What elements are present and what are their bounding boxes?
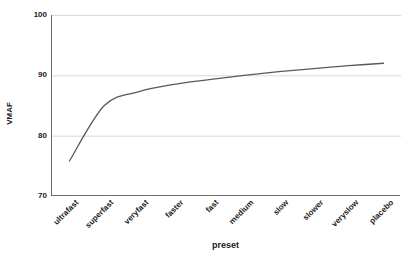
- vmaf-data-line: [69, 63, 383, 161]
- x-tick-label-veryslow: veryslow: [329, 198, 360, 229]
- x-tick-label-text: medium: [227, 198, 255, 226]
- x-tick-label-text: slower: [301, 198, 325, 222]
- x-tick-label-faster: faster: [164, 198, 186, 220]
- x-tick-label-text: faster: [164, 198, 186, 220]
- x-tick-label-placebo: placebo: [367, 198, 395, 226]
- y-axis-title-text: VMAF: [5, 102, 14, 125]
- x-tick-label-veryfast: veryfast: [123, 198, 151, 226]
- x-tick-label-text: veryfast: [123, 198, 151, 226]
- x-tick-label-slow: slow: [271, 198, 290, 217]
- y-tick-label-90: 90: [22, 71, 47, 79]
- x-tick-label-text: ultrafast: [52, 198, 81, 227]
- x-tick-label-text: superfast: [84, 198, 116, 230]
- plot-canvas: [52, 15, 401, 196]
- y-tick-label-70: 70: [22, 192, 47, 200]
- x-tick-label-text: slow: [271, 198, 290, 217]
- gridlines: [52, 16, 401, 137]
- y-axis-tick-labels: 100908070: [22, 0, 47, 263]
- plot-area: [51, 15, 400, 196]
- x-tick-label-slower: slower: [301, 198, 325, 222]
- y-axis-title: VMAF: [0, 88, 18, 138]
- vmaf-preset-chart: VMAF 100908070 ultrafastsuperfastveryfas…: [0, 0, 415, 263]
- y-tick-label-100: 100: [22, 11, 47, 19]
- x-axis-title: preset: [51, 240, 400, 250]
- x-tick-label-medium: medium: [227, 198, 255, 226]
- x-tick-label-fast: fast: [204, 198, 220, 214]
- x-tick-label-text: placebo: [367, 198, 395, 226]
- x-tick-label-text: fast: [204, 198, 220, 214]
- x-tick-label-ultrafast: ultrafast: [52, 198, 81, 227]
- x-tick-label-superfast: superfast: [84, 198, 116, 230]
- x-axis-tick-labels: ultrafastsuperfastveryfastfasterfastmedi…: [51, 196, 400, 241]
- x-tick-label-text: veryslow: [329, 198, 360, 229]
- y-tick-label-80: 80: [22, 132, 47, 140]
